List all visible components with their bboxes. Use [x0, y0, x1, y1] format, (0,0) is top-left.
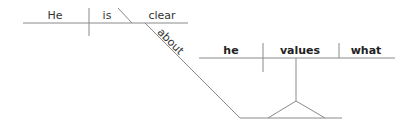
sentence-diagram: He is clear about he values what	[0, 0, 409, 123]
word-clause-object: what	[351, 44, 382, 57]
predicate-divider	[118, 8, 132, 23]
word-preposition: about	[155, 26, 187, 58]
word-clause-verb: values	[280, 44, 321, 57]
word-clause-subject: he	[223, 44, 238, 57]
word-predicate-adjective: clear	[148, 9, 176, 22]
word-subject: He	[47, 9, 62, 22]
word-verb: is	[103, 9, 112, 22]
pedestal-right-leg	[296, 101, 325, 118]
pedestal-left-leg	[268, 101, 296, 118]
